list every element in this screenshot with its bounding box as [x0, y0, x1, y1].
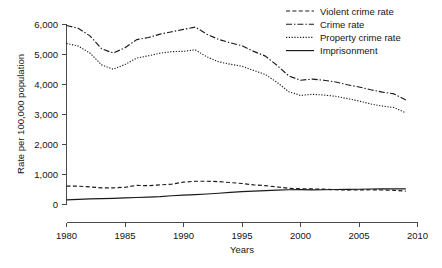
x-tick-label: 1995: [231, 230, 252, 241]
x-tick-label: 1985: [114, 230, 135, 241]
y-tick-label: 0: [53, 199, 58, 210]
x-tick-label: 1980: [56, 230, 77, 241]
x-axis-title: Years: [230, 244, 254, 255]
y-tick-label: 4,000: [34, 79, 58, 90]
x-tick-label: 2010: [407, 230, 428, 241]
chart-legend: Violent crime rateCrime rateProperty cri…: [286, 6, 401, 57]
y-tick-label: 1,000: [34, 169, 58, 180]
legend-item: Imprisonment: [286, 45, 378, 56]
legend-label: Imprisonment: [320, 45, 378, 56]
x-tick-label: 1990: [173, 230, 194, 241]
y-tick-label: 3,000: [34, 109, 58, 120]
legend-item: Crime rate: [286, 19, 364, 30]
legend-label: Crime rate: [320, 19, 364, 30]
x-tick-label: 2000: [290, 230, 311, 241]
x-axis: 1980198519901995200020052010 Years: [56, 223, 428, 256]
y-tick-label: 5,000: [34, 49, 58, 60]
y-axis: 01,0002,0003,0004,0005,0006,000 Rate per…: [15, 19, 67, 210]
legend-label: Violent crime rate: [320, 6, 394, 17]
x-tick-label: 2005: [348, 230, 369, 241]
x-axis-tick-labels: 1980198519901995200020052010: [56, 230, 428, 241]
chart-plot-area: 01,0002,0003,0004,0005,0006,000 Rate per…: [0, 0, 442, 268]
y-tick-label: 6,000: [34, 19, 58, 30]
crime-rate-line-chart: 01,0002,0003,0004,0005,0006,000 Rate per…: [0, 0, 442, 268]
y-axis-title: Rate per 100,000 population: [15, 54, 26, 174]
legend-item: Property crime rate: [286, 32, 401, 43]
legend-item: Violent crime rate: [286, 6, 394, 17]
x-axis-ticks: [67, 223, 418, 228]
legend-label: Property crime rate: [320, 32, 401, 43]
y-tick-label: 2,000: [34, 139, 58, 150]
y-axis-tick-labels: 01,0002,0003,0004,0005,0006,000: [34, 19, 58, 210]
y-axis-ticks: [62, 24, 67, 204]
